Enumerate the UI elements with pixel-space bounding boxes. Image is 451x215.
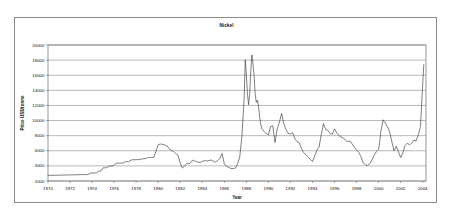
x-tick-labels: 1970197219741976197819801982198419861988…	[43, 186, 428, 191]
x-tick-label: 1994	[308, 186, 318, 191]
y-axis-title: Price US$/tonne	[20, 95, 25, 131]
x-tick-label: 1974	[87, 186, 97, 191]
x-tick-label: 1998	[352, 186, 362, 191]
x-tick-label: 2004	[418, 186, 428, 191]
line-chart: 2000400060008000100001200014000160001800…	[15, 18, 438, 204]
x-tick-label: 1990	[264, 186, 274, 191]
x-tick-label: 1996	[330, 186, 340, 191]
y-tick-label: 4000	[35, 163, 45, 168]
x-tick-label: 1988	[241, 186, 251, 191]
x-tick-label: 1992	[286, 186, 296, 191]
y-tick-label: 6000	[35, 148, 45, 153]
x-tick-label: 1980	[153, 186, 163, 191]
x-tick-label: 1970	[43, 186, 53, 191]
x-tick-label: 1984	[197, 186, 207, 191]
plot-area-wrapper: 2000400060008000100001200014000160001800…	[15, 18, 438, 204]
chart-screenshot: Nickel 200040006000800010000120001400016…	[0, 0, 451, 215]
y-tick-label: 10000	[32, 118, 45, 123]
series-line-nickel-price	[48, 55, 424, 176]
x-tick-label: 1972	[65, 186, 75, 191]
x-axis-title: Year	[232, 195, 242, 200]
y-tick-label: 12000	[32, 103, 45, 108]
y-tick-label: 14000	[32, 88, 45, 93]
y-tick-label: 18000	[32, 58, 45, 63]
x-tick-label: 1976	[109, 186, 119, 191]
y-tick-label: 20000	[32, 43, 45, 48]
x-tick-label: 1986	[219, 186, 229, 191]
x-tick-label: 1982	[175, 186, 185, 191]
x-tick-label: 1978	[131, 186, 141, 191]
x-tick-label: 2000	[374, 186, 384, 191]
plot-border	[48, 45, 426, 181]
y-tick-label: 2000	[35, 179, 45, 184]
gridlines	[46, 45, 426, 181]
y-tick-labels: 2000400060008000100001200014000160001800…	[32, 43, 45, 184]
x-tick-label: 2002	[396, 186, 406, 191]
chart-frame: Nickel 200040006000800010000120001400016…	[14, 17, 437, 203]
y-tick-label: 8000	[35, 133, 45, 138]
y-tick-label: 16000	[32, 73, 45, 78]
